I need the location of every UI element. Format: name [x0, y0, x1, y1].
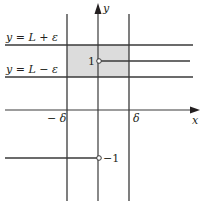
y-axis-arrow-icon [95, 3, 102, 14]
epsilon-delta-diagram: y x y = L + ε y = L − ε − δ δ 1 −1 [0, 0, 202, 201]
label-value-1: 1 [88, 55, 95, 68]
open-dot-at-1 [97, 59, 102, 64]
open-dot-at-minus-1 [97, 156, 102, 161]
y-axis-label: y [102, 2, 110, 15]
label-delta: δ [133, 112, 140, 125]
label-minus-delta: − δ [47, 112, 67, 125]
label-L-plus-epsilon: y = L + ε [5, 31, 58, 44]
x-axis-arrow-icon [190, 107, 200, 114]
label-value-minus-1: −1 [103, 152, 119, 165]
label-L-minus-epsilon: y = L − ε [5, 63, 58, 76]
x-axis-label: x [192, 114, 199, 127]
